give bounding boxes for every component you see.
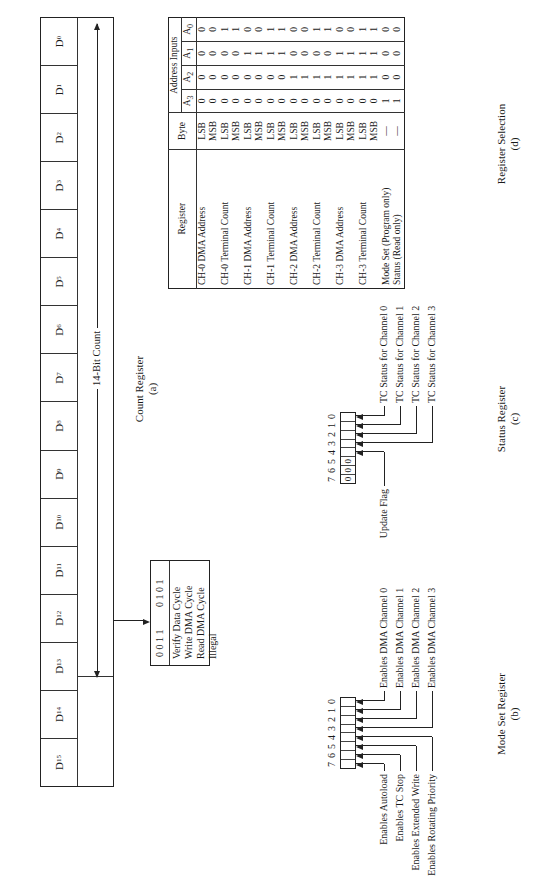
- address-bit-a1: 0: [289, 41, 301, 65]
- byte-cell: —: [381, 113, 393, 149]
- leader-horizontal: [432, 406, 433, 444]
- leader-arrow-icon: [356, 708, 363, 714]
- register-name: CH-1 Terminal Count: [266, 149, 278, 288]
- table-row: MSB0101: [323, 18, 335, 289]
- table-row: MSB0111: [369, 18, 381, 289]
- cycle-label: Write DMA Cycle: [183, 586, 195, 659]
- address-bit-a0: 1: [220, 18, 232, 42]
- register-name: CH-3 Terminal Count: [358, 149, 370, 288]
- caption-letter: (d): [508, 79, 521, 209]
- address-bit-a0: 0: [346, 18, 358, 42]
- leader-horizontal: [416, 406, 417, 435]
- address-bit-a1: 0: [323, 41, 335, 65]
- address-bit-a0: 1: [312, 18, 324, 42]
- address-bit-a1: 0: [208, 41, 220, 65]
- address-bit-a3: 0: [243, 89, 255, 113]
- bit-cell: 0: [341, 465, 355, 474]
- span-arrow-left-icon: [94, 671, 100, 678]
- register-name: [208, 149, 220, 288]
- span-arrow-right-icon: [94, 23, 100, 30]
- bit-number: 6: [326, 751, 337, 760]
- leader-label: Enables DMA Channel 2: [410, 588, 422, 688]
- address-bit-a0: 0: [300, 18, 312, 42]
- register-selection-caption: Register Selection (d): [495, 79, 521, 209]
- leader-arrow-icon: [356, 735, 363, 741]
- byte-cell: MSB: [300, 113, 312, 149]
- address-bit-a1: 0: [312, 41, 324, 65]
- leader-horizontal: [384, 453, 385, 487]
- bit-number: 5: [326, 742, 337, 751]
- leader-arrow-icon: [356, 423, 363, 429]
- address-bit-a1: 1: [243, 41, 255, 65]
- address-bit-a2: 0: [220, 65, 232, 89]
- count-register-caption: Count Register (a): [133, 329, 159, 449]
- register-name: [346, 149, 358, 288]
- caption-title: Status Register: [495, 359, 508, 479]
- address-bit-a2: 0: [254, 65, 266, 89]
- leader-label: Update Flag: [378, 489, 390, 538]
- address-bit-a2: 1: [312, 65, 324, 89]
- bit-cell: [341, 430, 355, 439]
- address-bit-a2: 0: [231, 65, 243, 89]
- address-bit-a3: 0: [323, 89, 335, 113]
- mode-set-register: [340, 697, 356, 769]
- caption-title: Register Selection: [495, 79, 508, 209]
- leader-arrow-icon: [356, 744, 363, 750]
- bit-cell: 0: [341, 456, 355, 465]
- mode-set-caption: Mode Set Register (b): [495, 639, 521, 789]
- mode-set-bit-numbers: 76543210: [326, 697, 337, 769]
- bit-cell: [341, 448, 355, 457]
- count-bit-cell: D0: [41, 18, 77, 65]
- address-bit-a1: 1: [277, 41, 289, 65]
- cycle-label: Illegal: [207, 586, 219, 659]
- byte-cell: MSB: [323, 113, 335, 149]
- leader-label: Enables TC Stop: [394, 774, 406, 842]
- address-bit-a0: 0: [392, 18, 404, 42]
- register-name: [277, 149, 289, 288]
- leader-horizontal: [400, 691, 401, 711]
- leader-label: Enables Rotating Priority: [426, 774, 438, 876]
- count-register: D15D14D13D12D11D10D9D8D7D6D5D4D3D2D1D0: [40, 17, 114, 787]
- table-row: CH-3 DMA AddressLSB0110: [335, 18, 347, 289]
- leader-vertical: [356, 719, 416, 720]
- bit-cell: [341, 759, 355, 768]
- cycle-label: Verify Data Cycle: [171, 586, 183, 659]
- leader-vertical: [356, 443, 432, 444]
- table-row: MSB0010: [254, 18, 266, 289]
- leader-horizontal: [416, 691, 417, 720]
- byte-cell: LSB: [243, 113, 255, 149]
- address-bit-a1: 0: [392, 41, 404, 65]
- bit-cell: [341, 724, 355, 733]
- address-bit-a1: 0: [196, 41, 208, 65]
- register-name: CH-1 DMA Address: [243, 149, 255, 288]
- register-name: [323, 149, 335, 288]
- address-bit-a1: 1: [369, 41, 381, 65]
- register-name: [231, 149, 243, 288]
- col-address-inputs: Address Inputs: [169, 18, 182, 113]
- count-bit-cell: D11: [41, 546, 77, 594]
- table-row: CH-0 DMA AddressLSB0000: [196, 18, 208, 289]
- address-bit-a2: 1: [323, 65, 335, 89]
- leader-arrow-icon: [356, 762, 363, 768]
- bit-number: 4: [326, 733, 337, 742]
- count-register-bits: D15D14D13D12D11D10D9D8D7D6D5D4D3D2D1D0: [41, 18, 78, 786]
- caption-title: Mode Set Register: [495, 639, 508, 789]
- address-bit-a2: 1: [289, 65, 301, 89]
- cycle-labels: Verify Data CycleWrite DMA CycleRead DMA…: [171, 586, 219, 659]
- bit-cell: [341, 421, 355, 430]
- leader-arrow-icon: [356, 699, 363, 705]
- register-name: Mode Set (Program only): [381, 149, 393, 288]
- status-register: 000: [340, 412, 356, 484]
- count-bit-cell: D9: [41, 450, 77, 498]
- byte-cell: MSB: [231, 113, 243, 149]
- col-register: Register: [169, 149, 197, 288]
- count-bit-cell: D4: [41, 209, 77, 257]
- byte-cell: MSB: [208, 113, 220, 149]
- address-bit-a0: 0: [381, 18, 393, 42]
- register-name: [300, 149, 312, 288]
- bit-cell: [341, 413, 355, 421]
- leader-arrow-icon: [356, 450, 363, 456]
- register-name: CH-2 Terminal Count: [312, 149, 324, 288]
- address-bit-a3: 0: [277, 89, 289, 113]
- table-row: MSB0001: [231, 18, 243, 289]
